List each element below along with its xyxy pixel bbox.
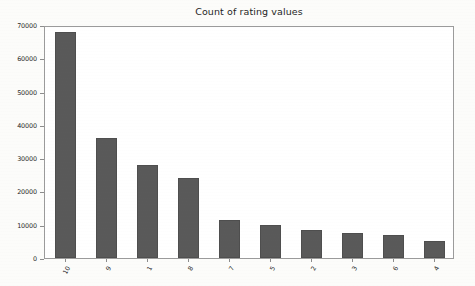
bar [383,235,404,258]
x-axis-tick-mark [106,259,107,262]
y-axis-tick-label: 0 [33,255,37,263]
x-axis-tick-label: 10 [61,265,72,276]
x-axis-tick-mark [270,259,271,262]
x-axis-tick-label: 5 [268,265,277,272]
bar [260,225,281,258]
x-axis-tick-mark [311,259,312,262]
y-axis-tick-label: 30000 [17,155,37,163]
x-axis-tick-label: 4 [432,265,441,272]
y-axis-tick-label: 70000 [17,22,37,30]
bar [301,230,322,258]
x-axis-tick-mark [147,259,148,262]
y-axis-tick-label: 40000 [17,122,37,130]
x-axis-tick-label: 1 [145,265,154,272]
bar [424,241,445,258]
plot-area [44,26,454,259]
x-axis-tick-mark [229,259,230,262]
x-axis-tick-label: 3 [350,265,359,272]
bar [55,32,76,258]
x-axis: 10918752364 [44,259,454,286]
bar-series [45,27,453,258]
x-axis-tick-label: 8 [186,265,195,272]
bar [219,220,240,258]
x-axis-tick-label: 6 [391,265,400,272]
chart-title: Count of rating values [44,6,454,17]
y-axis: 010000200003000040000500006000070000 [0,26,44,259]
bar [137,165,158,258]
y-axis-tick-label: 20000 [17,188,37,196]
x-axis-tick-label: 9 [104,265,113,272]
bar [178,178,199,258]
y-axis-tick-label: 10000 [17,222,37,230]
x-axis-tick-mark [352,259,353,262]
y-axis-tick-label: 50000 [17,89,37,97]
figure-canvas: Count of rating values 01000020000300004… [0,0,475,286]
bar [342,233,363,258]
x-axis-tick-label: 2 [309,265,318,272]
y-axis-tick-label: 60000 [17,55,37,63]
x-axis-tick-label: 7 [227,265,236,272]
bar [96,138,117,258]
x-axis-tick-mark [393,259,394,262]
x-axis-tick-mark [65,259,66,262]
x-axis-tick-mark [434,259,435,262]
x-axis-tick-mark [188,259,189,262]
